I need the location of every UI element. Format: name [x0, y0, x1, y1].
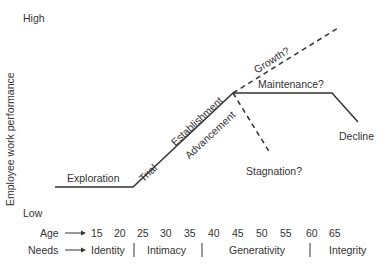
age-value: 65	[329, 228, 341, 239]
stage-exploration-label: Exploration	[67, 173, 120, 184]
y-axis-title: Employee work performance	[4, 72, 16, 206]
need-identity: Identity	[91, 245, 125, 256]
stagnation-dashed-line	[233, 93, 270, 153]
need-generativity: Generativity	[229, 245, 285, 256]
age-value: 45	[232, 228, 244, 239]
age-value: 55	[280, 228, 292, 239]
age-row-label: Age	[40, 228, 59, 239]
need-integrity: Integrity	[329, 245, 366, 256]
age-value: 40	[208, 228, 220, 239]
age-value: 60	[306, 228, 318, 239]
stage-maintenance-label: Maintenance?	[258, 79, 324, 90]
stage-decline-label: Decline	[339, 131, 374, 142]
age-arrow-head	[81, 231, 86, 236]
y-axis-low-label: Low	[23, 208, 42, 219]
age-value: 50	[256, 228, 268, 239]
age-value: 35	[184, 228, 196, 239]
age-value: 20	[114, 228, 126, 239]
age-value: 30	[160, 228, 172, 239]
y-axis-high-label: High	[23, 13, 45, 24]
needs-row-label: Needs	[28, 245, 58, 256]
age-value: 25	[137, 228, 149, 239]
stage-stagnation-label: Stagnation?	[246, 166, 302, 177]
needs-arrow-head	[81, 248, 86, 253]
age-value: 15	[91, 228, 103, 239]
need-intimacy: Intimacy	[147, 245, 186, 256]
